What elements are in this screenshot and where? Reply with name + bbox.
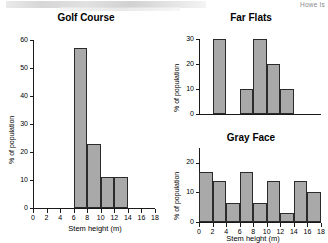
x-axis-tick <box>307 223 308 227</box>
plot-area: 0102030405060024681012141618 <box>33 40 155 208</box>
bar <box>240 172 254 222</box>
x-axis-line <box>199 222 321 223</box>
chart-title: Far Flats <box>191 12 311 23</box>
corner-note: Howe Is <box>300 1 325 8</box>
x-axis-tick <box>294 223 295 227</box>
bar <box>226 203 240 222</box>
x-axis-tick <box>321 223 322 227</box>
y-axis-tick-label: 0 <box>7 204 28 211</box>
bar <box>253 39 267 114</box>
y-axis-tick-label: 0 <box>173 218 194 225</box>
x-axis-tick <box>226 223 227 227</box>
bar <box>213 39 227 114</box>
x-axis-tick <box>114 209 115 213</box>
y-axis-tick-label: 20 <box>173 158 194 165</box>
y-axis-tick-label: 0 <box>173 110 194 117</box>
y-axis-tick <box>196 39 200 40</box>
y-axis-tick-label: 30 <box>173 35 194 42</box>
bar <box>240 89 254 114</box>
x-axis-tick <box>47 209 48 213</box>
y-axis-tick <box>30 96 34 97</box>
bar <box>280 89 294 114</box>
y-axis-tick-label: 10 <box>7 176 28 183</box>
y-axis-tick <box>30 68 34 69</box>
x-axis-tick <box>87 209 88 213</box>
x-axis-label: Stem height (m) <box>193 234 313 243</box>
y-axis-label: % of population <box>173 172 180 220</box>
y-axis-tick <box>30 40 34 41</box>
bar <box>307 192 321 222</box>
y-axis-tick-label: 40 <box>7 92 28 99</box>
y-axis-tick-label: 10 <box>173 85 194 92</box>
bar <box>199 172 213 222</box>
y-axis-tick-label: 20 <box>173 60 194 67</box>
y-axis-tick-label: 30 <box>7 120 28 127</box>
bar <box>280 213 294 222</box>
x-axis-label: Stem height (m) <box>30 224 160 233</box>
bar <box>87 144 101 208</box>
bar <box>294 181 308 222</box>
plot-area: 0102030 <box>199 39 321 114</box>
chart-panel-gray-face: Gray Face % of population 01020024681012… <box>163 122 328 237</box>
scan-artifact-top-secondary <box>60 7 180 11</box>
y-axis-tick <box>30 180 34 181</box>
y-axis-tick <box>30 124 34 125</box>
chart-title: Golf Course <box>16 12 156 23</box>
x-axis-tick <box>213 223 214 227</box>
bar <box>253 203 267 222</box>
x-axis-tick-label: 18 <box>313 228 328 235</box>
x-axis-tick <box>155 209 156 213</box>
y-axis-tick-label: 50 <box>7 64 28 71</box>
y-axis-line <box>199 39 200 114</box>
x-axis-tick <box>128 209 129 213</box>
y-axis-tick <box>196 89 200 90</box>
chart-panel-golf-course: Golf Course % of population 010203040506… <box>0 12 166 237</box>
x-axis-tick <box>33 209 34 213</box>
y-axis-tick-label: 10 <box>173 188 194 195</box>
bar <box>101 177 115 208</box>
bar <box>114 177 128 208</box>
chart-panel-far-flats: Far Flats % of population 0102030 <box>163 12 328 122</box>
y-axis-tick-label: 60 <box>7 36 28 43</box>
bar <box>267 64 281 114</box>
plot-area: 01020024681012141618 <box>199 148 321 222</box>
x-axis-tick <box>60 209 61 213</box>
bar <box>213 181 227 222</box>
y-axis-tick <box>30 152 34 153</box>
x-axis-line <box>33 208 155 209</box>
x-axis-tick <box>280 223 281 227</box>
bar <box>74 48 88 208</box>
x-axis-line <box>199 114 321 115</box>
x-axis-tick <box>199 223 200 227</box>
x-axis-tick <box>101 209 102 213</box>
x-axis-tick <box>141 209 142 213</box>
x-axis-tick <box>74 209 75 213</box>
x-axis-tick <box>267 223 268 227</box>
x-axis-tick-label: 18 <box>147 214 163 221</box>
y-axis-tick <box>196 64 200 65</box>
x-axis-tick <box>253 223 254 227</box>
x-axis-tick <box>240 223 241 227</box>
bar <box>267 181 281 222</box>
y-axis-tick-label: 20 <box>7 148 28 155</box>
chart-title: Gray Face <box>191 132 311 143</box>
y-axis-tick <box>196 114 200 115</box>
y-axis-tick <box>196 163 200 164</box>
